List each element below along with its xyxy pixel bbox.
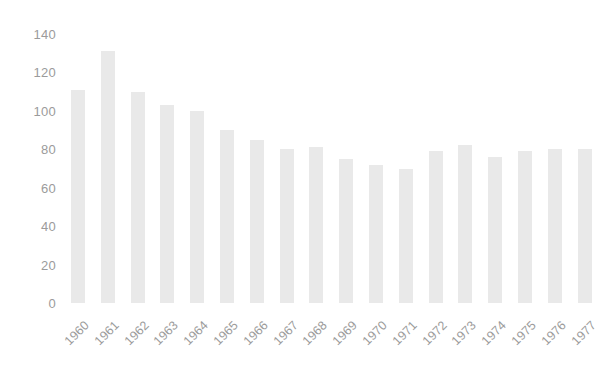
x-axis-tick-label: 1972 [419,318,449,348]
x-axis-tick-label: 1964 [181,318,211,348]
x-axis-tick-label: 1976 [539,318,569,348]
x-axis-tick-label: 1963 [151,318,181,348]
x-axis-tick-label: 1960 [62,318,92,348]
x-axis-tick-label: 1974 [479,318,509,348]
x-axis-tick-label: 1966 [241,318,271,348]
x-axis-tick-label: 1962 [121,318,151,348]
x-axis-tick-label: 1970 [360,318,390,348]
x-axis-tick-label: 1973 [449,318,479,348]
x-axis-tick-label: 1969 [330,318,360,348]
x-axis-tick-label: 1968 [300,318,330,348]
x-axis-tick-label: 1967 [270,318,300,348]
x-axis-tick-label: 1971 [390,318,420,348]
x-axis-tick-label: 1961 [92,318,122,348]
x-axis-tick-label: 1965 [211,318,241,348]
x-axis-tick-label: 1975 [509,318,539,348]
x-axis-tick-label: 1977 [568,318,598,348]
